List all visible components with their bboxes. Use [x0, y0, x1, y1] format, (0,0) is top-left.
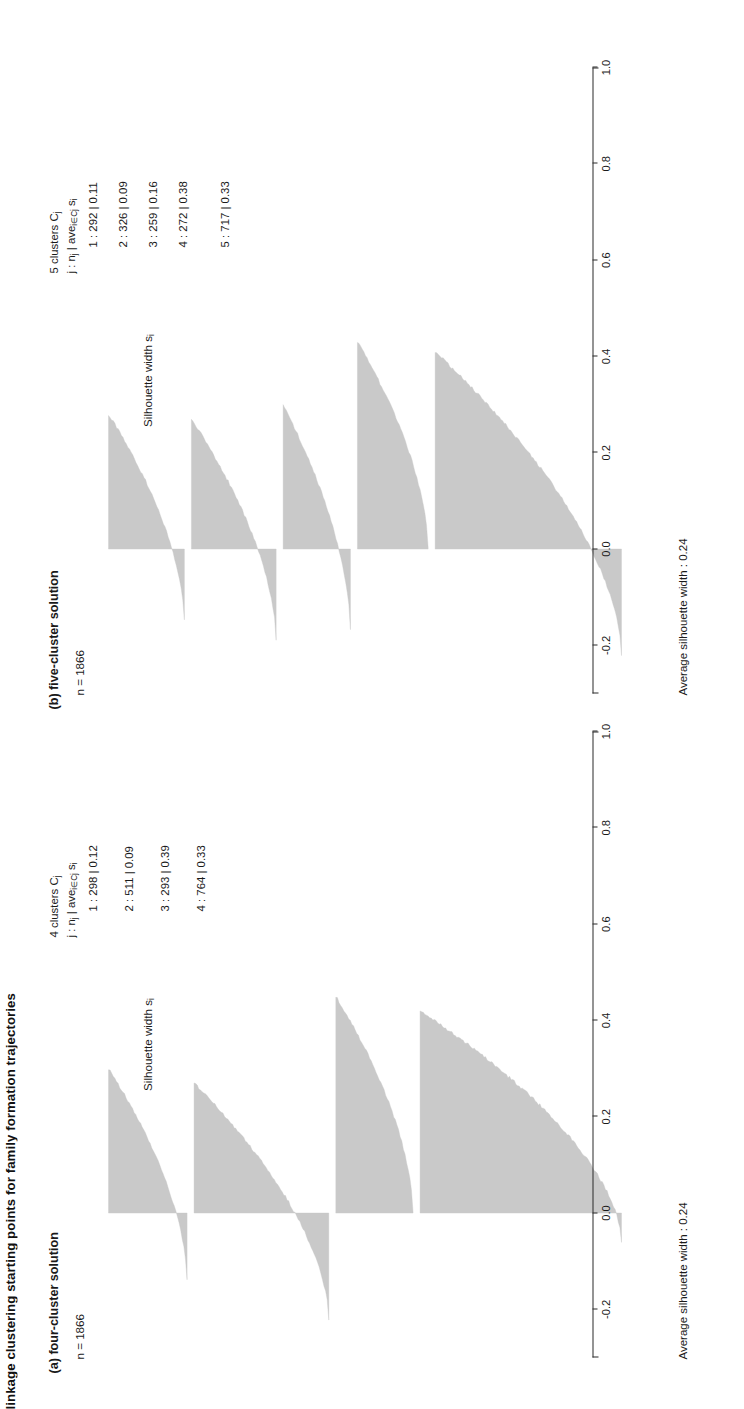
axis-line: [592, 731, 593, 1357]
average-silhouette-note: Average silhouette width : 0.24: [676, 538, 688, 695]
panel-sample-size: n = 1866: [72, 1314, 85, 1359]
cluster-silhouette-shape: [335, 997, 412, 1213]
silhouette-bars: [104, 731, 624, 1357]
cluster-band-2: [194, 1082, 329, 1319]
x-axis: -0.20.00.20.40.60.81.0: [592, 67, 626, 693]
plot-inner: [104, 731, 624, 1357]
axis-cap-left: [592, 1356, 598, 1357]
axis-tick: [592, 451, 597, 452]
axis-tick: [592, 1308, 597, 1309]
axis-tick-label: 1.0: [599, 59, 611, 75]
axis-tick-label: 0.4: [599, 348, 611, 364]
legend-heading-text: 5 clusters C: [47, 213, 59, 273]
axis-tick: [592, 644, 597, 645]
cluster-band-4: [357, 342, 428, 549]
legend-heading: 5 clusters Cj: [46, 63, 63, 273]
axis-tick: [592, 1019, 597, 1020]
panel-four-cluster: (a) four-cluster solution n = 1866 4 clu…: [46, 725, 706, 1373]
legend-sub-p0: j : n: [64, 919, 76, 937]
axis-tick: [592, 162, 597, 163]
cluster-band-3: [335, 997, 412, 1213]
axis-title-text: Silhouette width s: [140, 1000, 153, 1091]
legend-sub-p2: | ave: [64, 889, 76, 917]
figure-canvas: linkage clustering starting points for f…: [0, 0, 744, 1409]
legend-subheading: j : nj | avei∈Cj si: [63, 727, 80, 937]
axis-line: [592, 67, 593, 693]
legend-subheading: j : nj | avei∈Cj si: [63, 63, 80, 273]
silhouette-plot-area: -0.20.00.20.40.60.81.0 Silhouette width …: [104, 731, 624, 1357]
silhouette-plot-area: -0.20.00.20.40.60.81.0 Silhouette width …: [104, 67, 624, 693]
legend-sub-p3: i∈Cj: [69, 209, 78, 226]
axis-title-sub: i: [145, 998, 155, 1000]
figure-title: linkage clustering starting points for f…: [2, 0, 17, 1409]
panel-five-cluster: (b) five-cluster solution n = 1866 5 clu…: [46, 61, 706, 709]
cluster-band-2: [191, 419, 276, 640]
legend-sub-p2: | ave: [64, 225, 76, 253]
cluster-band-3: [283, 404, 350, 629]
axis-tick-label: 0.2: [599, 1108, 611, 1124]
legend-sub-p0: j : n: [64, 255, 76, 273]
average-silhouette-note: Average silhouette width : 0.24: [676, 1202, 688, 1359]
axis-tick: [592, 66, 597, 67]
axis-tick: [592, 355, 597, 356]
cluster-silhouette-shape: [191, 419, 276, 640]
plot-inner: [104, 67, 624, 693]
legend-row: 1 : 298 | 0.12: [85, 845, 101, 911]
axis-tick: [592, 259, 597, 260]
legend-heading-text: 4 clusters C: [47, 877, 59, 937]
axis-tick-label: -0.2: [599, 1299, 611, 1318]
cluster-silhouette-shape: [420, 1010, 621, 1241]
axis-tick: [592, 826, 597, 827]
legend-row: 1 : 292 | 0.11: [85, 182, 101, 247]
legend-heading-sub: j: [52, 875, 61, 877]
axis-cap-left: [592, 692, 598, 693]
axis-tick-label: 0.8: [599, 820, 611, 836]
legend-sub-p4: s: [64, 200, 76, 209]
axis-tick-label: 0.4: [599, 1012, 611, 1028]
rotated-figure: linkage clustering starting points for f…: [0, 0, 744, 1409]
axis-tick-label: -0.2: [599, 635, 611, 654]
axis-tick: [592, 1115, 597, 1116]
legend-heading: 4 clusters Cj: [46, 727, 63, 937]
axis-title-text: Silhouette width s: [140, 336, 153, 427]
axis-tick-label: 0.0: [599, 1205, 611, 1221]
axis-tick: [592, 923, 597, 924]
silhouette-bars: [104, 67, 624, 693]
axis-tick-label: 0.6: [599, 916, 611, 932]
cluster-silhouette-shape: [283, 404, 350, 629]
cluster-silhouette-shape: [194, 1082, 329, 1319]
legend-sub-p3: i∈Cj: [69, 873, 78, 890]
axis-tick: [592, 548, 597, 549]
axis-title: Silhouette width si: [140, 731, 155, 1357]
cluster-silhouette-shape: [357, 342, 428, 549]
panel-label: (b) five-cluster solution: [46, 570, 60, 709]
panel-sample-size: n = 1866: [72, 650, 85, 695]
axis-tick-label: 0.0: [599, 541, 611, 557]
axis-title: Silhouette width si: [140, 67, 155, 693]
axis-tick-label: 1.0: [599, 723, 611, 739]
axis-tick-label: 0.8: [599, 156, 611, 172]
axis-tick: [592, 1212, 597, 1213]
axis-tick-label: 0.2: [599, 444, 611, 460]
legend-sub-p5: i: [69, 862, 78, 864]
legend-heading-sub: j: [52, 211, 61, 213]
axis-tick-label: 0.6: [599, 252, 611, 268]
cluster-band-4: [420, 1010, 621, 1241]
axis-title-sub: i: [145, 334, 155, 336]
axis-tick: [592, 730, 597, 731]
legend-sub-p5: i: [69, 198, 78, 200]
legend-sub-p4: s: [64, 864, 76, 873]
panel-label: (a) four-cluster solution: [46, 1232, 60, 1373]
x-axis: -0.20.00.20.40.60.81.0: [592, 731, 626, 1357]
